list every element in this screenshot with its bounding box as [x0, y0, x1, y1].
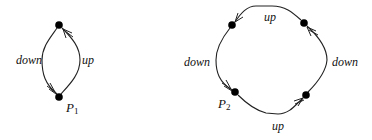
diagram-canvas: down up P1 up down down up P2 — [0, 0, 372, 140]
edge-down-left — [42, 28, 57, 94]
node-top-left — [228, 21, 236, 29]
edge-label-up-bottom: up — [272, 119, 284, 133]
node-bottom-left — [231, 88, 239, 96]
point-label-p1: P1 — [65, 100, 78, 116]
edge-label-down-right: down — [332, 55, 358, 69]
node-top-right — [300, 19, 308, 27]
edge-up-bottom — [238, 95, 303, 114]
arrowhead-down-right-icon — [307, 27, 318, 36]
edge-label-down: down — [16, 53, 42, 67]
node-bottom — [55, 93, 63, 101]
diagram-p1: down up P1 — [16, 21, 94, 116]
edge-label-up: up — [82, 53, 94, 67]
edge-down-left — [216, 28, 232, 90]
point-label-p2: P2 — [217, 96, 230, 112]
edge-down-right — [307, 26, 327, 92]
diagram-p2: up down down up P2 — [184, 6, 358, 133]
edge-up-right — [61, 28, 80, 94]
node-bottom-right — [302, 91, 310, 99]
edge-label-down-left: down — [184, 55, 210, 69]
edge-label-up-top: up — [264, 10, 276, 24]
node-top — [55, 21, 63, 29]
